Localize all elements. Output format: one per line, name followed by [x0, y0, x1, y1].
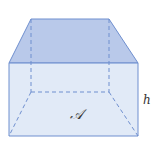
- height-label: h: [143, 93, 151, 107]
- top-face: [9, 19, 138, 63]
- trapezoidal-prism-diagram: 𝒜 h: [0, 0, 159, 142]
- front-face: [9, 63, 138, 136]
